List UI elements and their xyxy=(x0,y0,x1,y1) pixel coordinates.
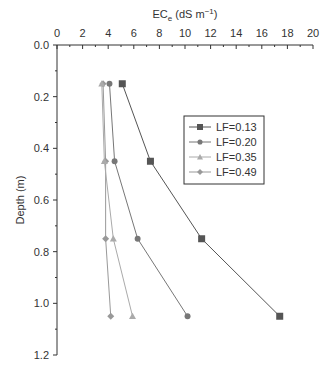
svg-text:18: 18 xyxy=(281,27,293,39)
svg-text:0.8: 0.8 xyxy=(34,246,49,258)
svg-text:4: 4 xyxy=(105,27,111,39)
svg-text:20: 20 xyxy=(307,27,319,39)
svg-text:12: 12 xyxy=(204,27,216,39)
svg-text:LF=0.49: LF=0.49 xyxy=(216,166,257,178)
svg-text:2: 2 xyxy=(80,27,86,39)
x-axis: 02468101214161820 xyxy=(54,27,319,49)
line-chart: ECe (dS m−1) 02468101214161820 0.00.20.4… xyxy=(0,0,328,373)
svg-text:0.6: 0.6 xyxy=(34,194,49,206)
svg-text:0.2: 0.2 xyxy=(34,91,49,103)
svg-text:8: 8 xyxy=(156,27,162,39)
svg-text:6: 6 xyxy=(131,27,137,39)
svg-text:0.0: 0.0 xyxy=(34,39,49,51)
legend: LF=0.13LF=0.20LF=0.35LF=0.49 xyxy=(184,116,264,184)
svg-text:1.0: 1.0 xyxy=(34,297,49,309)
svg-text:10: 10 xyxy=(179,27,191,39)
svg-text:LF=0.35: LF=0.35 xyxy=(216,151,257,163)
svg-text:0: 0 xyxy=(54,27,60,39)
chart-container: ECe (dS m−1) 02468101214161820 0.00.20.4… xyxy=(0,0,328,373)
series-lf-0-20 xyxy=(107,81,191,319)
y-axis-label: Depth (m) xyxy=(14,176,26,225)
y-axis: 0.00.20.40.60.81.01.2 xyxy=(34,39,57,361)
x-axis-label: ECe (dS m−1) xyxy=(153,7,218,23)
svg-text:16: 16 xyxy=(256,27,268,39)
svg-text:14: 14 xyxy=(230,27,242,39)
svg-text:1.2: 1.2 xyxy=(34,349,49,361)
svg-text:0.4: 0.4 xyxy=(34,142,49,154)
svg-text:LF=0.20: LF=0.20 xyxy=(216,136,257,148)
svg-text:LF=0.13: LF=0.13 xyxy=(216,121,257,133)
